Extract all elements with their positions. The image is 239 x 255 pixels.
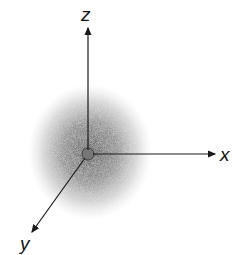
y-axis-label: y: [20, 234, 30, 253]
orbital-diagram: z x y: [0, 0, 239, 255]
orbital-svg: [0, 0, 239, 255]
x-axis-label: x: [220, 145, 230, 164]
z-axis-label: z: [81, 5, 91, 24]
